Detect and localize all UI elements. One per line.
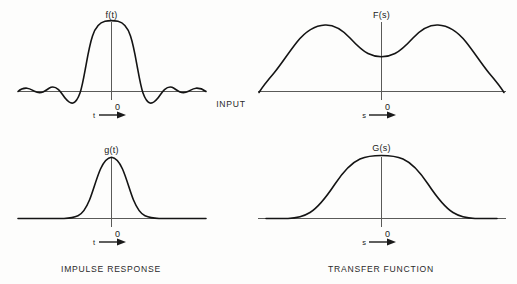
bottom-left-axis-variable: t <box>93 238 96 247</box>
panel-bottom-left: g(t) 0 t <box>18 145 206 247</box>
panel-top-left: f(t) 0 t <box>18 10 206 120</box>
top-left-axis-arrow-icon <box>99 112 126 119</box>
bottom-left-origin-label: 0 <box>115 229 120 239</box>
bottom-left-function-label: g(t) <box>104 145 118 155</box>
bottom-left-axis-arrow-icon <box>99 239 126 246</box>
panel-top-right: F(s) 0 s <box>258 10 506 120</box>
caption-transfer-function: TRANSFER FUNCTION <box>328 264 434 274</box>
top-left-axis-variable: t <box>93 111 96 120</box>
top-left-origin-label: 0 <box>115 102 120 112</box>
top-right-origin-label: 0 <box>385 102 390 112</box>
top-left-function-label: f(t) <box>106 10 118 20</box>
bottom-right-function-label: G(s) <box>372 143 390 153</box>
caption-impulse-response: IMPULSE RESPONSE <box>61 264 161 274</box>
caption-input: INPUT <box>216 99 246 109</box>
bottom-right-axis-variable: s <box>362 238 366 247</box>
top-right-function-label: F(s) <box>373 10 390 20</box>
bottom-right-axis-arrow-icon <box>369 239 396 246</box>
figure-canvas: f(t) 0 t F(s) 0 s INPUT g(t) 0 t <box>0 0 517 284</box>
top-right-axis-arrow-icon <box>369 112 396 119</box>
bottom-right-origin-label: 0 <box>385 229 390 239</box>
top-right-axis-variable: s <box>362 111 366 120</box>
panel-bottom-right: G(s) 0 s <box>258 143 506 247</box>
